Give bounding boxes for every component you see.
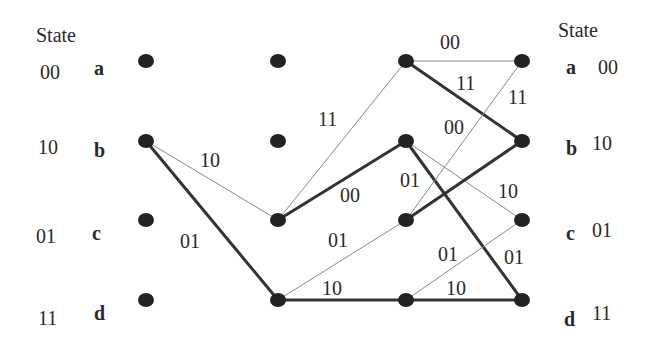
edge-label: 01 xyxy=(328,229,348,251)
state-node xyxy=(138,293,154,307)
right-state-bits-c: 01 xyxy=(592,219,612,241)
right-state-bits-d: 11 xyxy=(592,302,611,324)
edge-label: 01 xyxy=(504,246,524,268)
left-state-bits-d: 11 xyxy=(38,307,57,329)
left-state-letter-a: a xyxy=(94,57,104,79)
edge-label: 00 xyxy=(440,31,460,53)
edge-label: 00 xyxy=(444,116,464,138)
state-node xyxy=(138,213,154,227)
left-state-bits-c: 01 xyxy=(36,225,56,247)
edge-label: 11 xyxy=(508,86,527,108)
state-node xyxy=(138,54,154,68)
state-node xyxy=(514,213,530,227)
left-state-letter-c: c xyxy=(92,222,101,244)
state-node xyxy=(270,293,286,307)
state-node xyxy=(398,293,414,307)
left-state-bits-b: 10 xyxy=(38,136,58,158)
edge-label: 10 xyxy=(322,277,342,299)
state-node xyxy=(514,134,530,148)
state-node xyxy=(514,54,530,68)
edge-label: 10 xyxy=(498,180,518,202)
state-node xyxy=(398,54,414,68)
edge-label: 01 xyxy=(180,230,200,252)
edge-label: 10 xyxy=(446,277,466,299)
state-node xyxy=(270,134,286,148)
edge-label: 01 xyxy=(438,243,458,265)
state-node xyxy=(270,213,286,227)
state-node xyxy=(514,293,530,307)
trellis-diagram: 100111000110001110011100011001 State Sta… xyxy=(0,0,651,346)
right-state-bits-b: 10 xyxy=(592,132,612,154)
trellis-edge xyxy=(278,141,406,220)
left-state-letter-b: b xyxy=(94,139,105,161)
edge-label: 10 xyxy=(200,149,220,171)
state-node xyxy=(270,54,286,68)
state-node xyxy=(138,134,154,148)
right-state-header: State xyxy=(558,19,598,41)
state-node xyxy=(398,213,414,227)
state-node xyxy=(398,134,414,148)
edge-label: 00 xyxy=(340,184,360,206)
trellis-edges xyxy=(146,61,522,300)
left-state-bits-a: 00 xyxy=(40,61,60,83)
right-state-letter-d: d xyxy=(564,308,575,330)
right-state-letter-c: c xyxy=(566,222,575,244)
edge-label: 11 xyxy=(456,72,475,94)
edge-label: 11 xyxy=(318,108,337,130)
left-state-header: State xyxy=(36,24,76,46)
right-state-letter-a: a xyxy=(566,56,576,78)
right-state-letter-b: b xyxy=(566,137,577,159)
edge-label: 01 xyxy=(400,169,420,191)
right-state-bits-a: 00 xyxy=(598,56,618,78)
edge-labels: 100111000110001110011100011001 xyxy=(180,31,527,299)
left-state-letter-d: d xyxy=(94,302,105,324)
